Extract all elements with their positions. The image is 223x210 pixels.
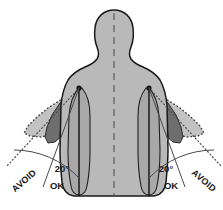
shoulder-abduction-diagram: 20° OK AVOID 20° OK AVOID [0, 0, 223, 210]
left-avoid-label: AVOID [10, 167, 39, 194]
right-angle-label: 20° [159, 163, 174, 174]
diagram-canvas: 20° OK AVOID 20° OK AVOID [0, 0, 223, 210]
right-ok-label: OK [164, 180, 178, 191]
left-angle-label: 20° [55, 163, 70, 174]
left-ok-label: OK [50, 180, 64, 191]
right-avoid-label: AVOID [190, 168, 219, 195]
